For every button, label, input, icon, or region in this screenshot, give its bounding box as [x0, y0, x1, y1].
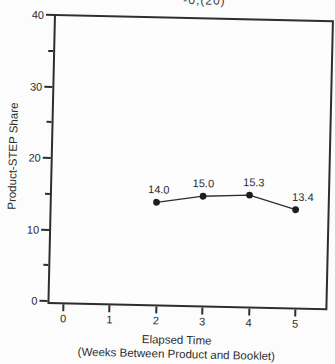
- data-series-layer: 14.015.015.313.4: [48, 14, 330, 306]
- x-tick-label: 0: [52, 312, 74, 325]
- data-point-label: 14.0: [148, 183, 170, 195]
- x-tick-label: 1: [98, 313, 120, 326]
- y-tick: [46, 14, 54, 16]
- y-tick-label: 30: [8, 78, 42, 93]
- x-tick: [155, 306, 157, 313]
- y-tick-label: 10: [5, 221, 39, 236]
- data-point-label: 13.4: [292, 191, 314, 203]
- y-tick-label: 20: [7, 150, 41, 165]
- y-tick: [43, 157, 51, 159]
- y-tick-label: 40: [10, 7, 44, 22]
- data-point-label: 15.0: [193, 177, 215, 189]
- x-tick: [109, 305, 111, 312]
- y-tick: [41, 228, 49, 230]
- data-line: [156, 193, 295, 210]
- data-point: [200, 193, 207, 200]
- chart-figure: -0,(20) Product-STEP Share 0102030400123…: [0, 0, 335, 364]
- data-point-label: 15.3: [243, 176, 265, 188]
- clipped-title-fragment: -0,(20): [183, 0, 226, 8]
- scan-tilt-wrapper: -0,(20) Product-STEP Share 0102030400123…: [0, 0, 335, 364]
- data-point: [292, 206, 299, 213]
- y-tick: [39, 300, 47, 302]
- x-tick-label: 2: [145, 314, 167, 327]
- x-tick-label: 3: [191, 315, 213, 328]
- x-tick: [201, 307, 203, 314]
- y-tick: [44, 85, 52, 87]
- x-tick: [248, 308, 250, 315]
- x-tick: [294, 310, 296, 317]
- data-point: [246, 192, 253, 199]
- x-tick: [62, 304, 64, 311]
- axis-ticks-layer: 010203040012345: [0, 0, 335, 6]
- y-tick-label: 0: [3, 293, 37, 308]
- x-tick-label: 5: [284, 317, 306, 330]
- x-tick-label: 4: [237, 316, 259, 329]
- data-point: [153, 199, 160, 206]
